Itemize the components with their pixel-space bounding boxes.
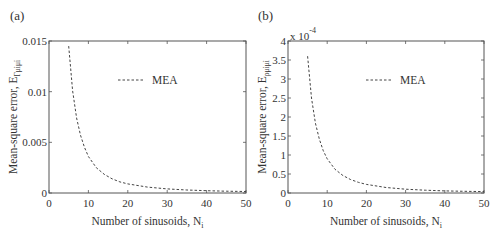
x-tick-label: 30 <box>162 197 174 209</box>
x-tick-label: 20 <box>122 197 134 209</box>
figure: (a)0102030405000.0050.010.015Number of s… <box>0 0 501 236</box>
y-axis-label-subscript: Γμiμi <box>13 60 22 77</box>
x-tick-label: 40 <box>439 197 451 209</box>
chart-panel-b: (b)0102030405000.511.522.533.54x 10-4Num… <box>256 8 490 230</box>
panel-label: (a) <box>10 8 24 23</box>
chart-panel-a: (a)0102030405000.0050.010.015Number of s… <box>7 8 252 230</box>
y-tick-label: 1 <box>281 149 287 161</box>
x-tick-label: 10 <box>83 197 95 209</box>
legend-label: MEA <box>152 74 178 86</box>
y-tick-label: 0.5 <box>272 168 286 180</box>
legend-label: MEA <box>400 74 426 86</box>
x-tick-label: 0 <box>46 197 52 209</box>
x-axis-label-subscript: i <box>201 221 204 230</box>
x-axis-label-subscript: i <box>440 221 443 230</box>
x-axis-label: Number of sinusoids, Ni <box>91 215 204 230</box>
y-tick-label: 3 <box>281 73 287 85</box>
x-tick-label: 40 <box>201 197 213 209</box>
x-tick-label: 20 <box>361 197 373 209</box>
y-tick-label: 0 <box>281 187 287 199</box>
y-tick-label: 0 <box>42 187 48 199</box>
y-tick-label: 3.5 <box>272 54 286 66</box>
y-tick-label: 0.015 <box>22 35 47 47</box>
series-line-mea <box>69 46 246 191</box>
y-axis-label-subscript: ρμiμi <box>262 60 271 76</box>
y-multiplier: x 10-4 <box>290 26 316 42</box>
y-tick-label: 2.5 <box>272 92 286 104</box>
plot-frame <box>288 41 484 193</box>
y-tick-label: 2 <box>281 111 287 123</box>
y-tick-label: 1.5 <box>272 130 286 142</box>
y-tick-label: 0.005 <box>22 136 47 148</box>
x-tick-label: 10 <box>322 197 334 209</box>
x-tick-label: 50 <box>241 197 253 209</box>
y-multiplier-exponent: -4 <box>309 26 316 35</box>
x-tick-label: 50 <box>479 197 491 209</box>
x-axis-label: Number of sinusoids, Ni <box>330 215 443 230</box>
plot-frame <box>49 41 246 193</box>
panel-label: (b) <box>258 8 273 23</box>
y-axis-label: Mean-square error, Eρμiμi <box>256 60 271 174</box>
y-tick-label: 0.01 <box>28 86 47 98</box>
y-tick-label: 4 <box>281 35 287 47</box>
x-tick-label: 30 <box>400 197 412 209</box>
series-line-mea <box>308 56 484 191</box>
x-tick-label: 0 <box>285 197 291 209</box>
y-axis-label: Mean-square error, EΓμiμi <box>7 60 22 174</box>
